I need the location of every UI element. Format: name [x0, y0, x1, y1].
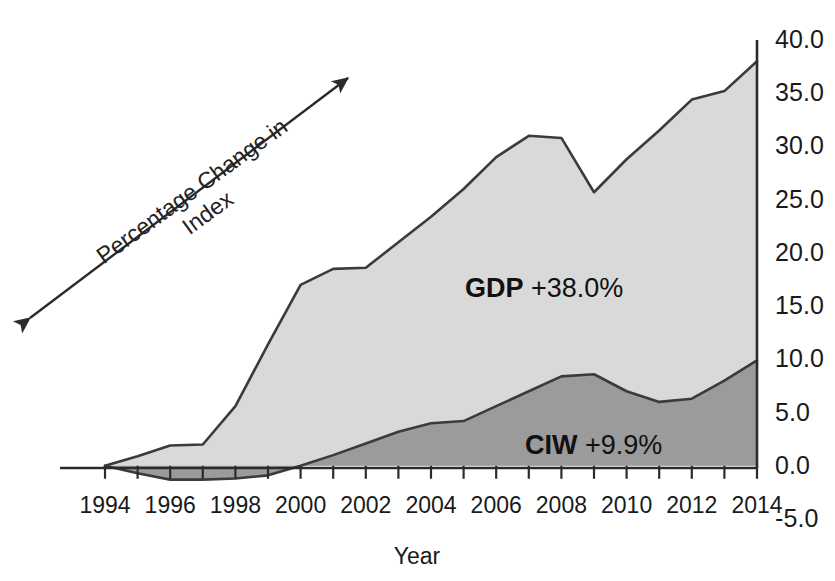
x-axis-tick-label: 1996 — [145, 494, 196, 517]
x-axis-tick-label: 2002 — [340, 494, 391, 517]
x-axis-tick-label: 2004 — [405, 494, 456, 517]
x-axis-tick-label: 1994 — [79, 494, 130, 517]
x-axis-tick-label: 2006 — [471, 494, 522, 517]
x-axis-title: Year — [394, 545, 440, 568]
y-axis-tick-label: 30.0 — [775, 133, 824, 158]
series-label-ciw: CIW +9.9% — [525, 432, 662, 459]
x-axis-tick-label: 2000 — [275, 494, 326, 517]
x-axis-tick-label: 2012 — [666, 494, 717, 517]
y-axis-tick-label: 20.0 — [775, 240, 824, 265]
x-axis-tick-label: 2014 — [731, 494, 782, 517]
x-axis-tick-label: 2008 — [536, 494, 587, 517]
y-axis-tick-label: 10.0 — [775, 346, 824, 371]
chart-figure: 40.035.030.025.020.015.010.05.00.0-5.0 1… — [0, 0, 835, 581]
series-code-gdp: GDP — [465, 273, 524, 303]
percentage-change-arrow-icon — [30, 78, 348, 318]
series-code-ciw: CIW — [525, 430, 577, 460]
series-change-gdp: +38.0% — [531, 273, 623, 303]
y-axis-tick-label: 25.0 — [775, 187, 824, 212]
series-change-ciw: +9.9% — [585, 430, 662, 460]
x-axis-tick-label: 1998 — [210, 494, 261, 517]
series-label-gdp: GDP +38.0% — [465, 275, 623, 302]
y-axis-tick-label: 40.0 — [775, 27, 824, 52]
x-axis-tick-label: 2010 — [601, 494, 652, 517]
x-axis-ticks — [105, 466, 757, 479]
y-axis-tick-label: 0.0 — [775, 453, 810, 478]
y-axis-tick-label: 5.0 — [775, 400, 810, 425]
y-axis-tick-label: 15.0 — [775, 293, 824, 318]
y-axis-tick-label: 35.0 — [775, 80, 824, 105]
